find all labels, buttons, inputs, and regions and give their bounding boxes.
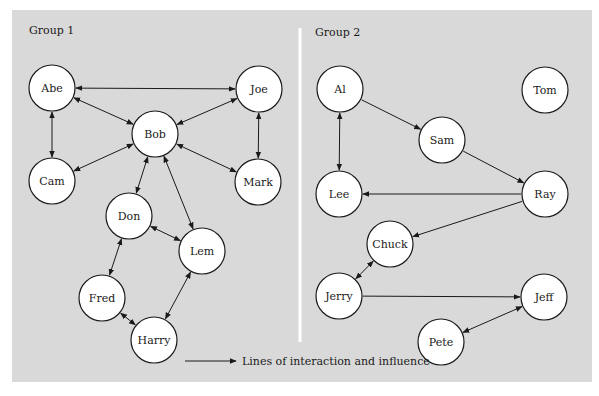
node-jerry: Jerry <box>316 273 362 319</box>
node-label: Lee <box>329 188 349 201</box>
node-don: Don <box>106 193 152 239</box>
node-mark: Mark <box>235 159 281 205</box>
node-sam: Sam <box>419 117 465 163</box>
edge-don-fred <box>110 239 122 275</box>
node-label: Ray <box>534 188 556 201</box>
legend: Lines of interaction and influence <box>185 355 430 368</box>
edge-lem-harry <box>165 272 190 319</box>
edge-bob-mark <box>177 144 236 172</box>
edge-joe-bob <box>177 99 237 125</box>
node-label: Tom <box>533 84 557 97</box>
node-bob: Bob <box>132 111 178 157</box>
node-joe: Joe <box>236 66 282 112</box>
edge-sam-ray <box>463 151 523 183</box>
node-label: Jerry <box>324 290 353 303</box>
node-al: Al <box>317 66 363 112</box>
node-chuck: Chuck <box>367 221 413 267</box>
edge-abe-bob <box>74 98 133 124</box>
node-label: Chuck <box>372 238 408 251</box>
node-label: Harry <box>138 334 172 347</box>
node-jeff: Jeff <box>521 274 567 320</box>
node-label: Mark <box>243 176 273 189</box>
node-label: Fred <box>89 292 115 305</box>
legend-label: Lines of interaction and influence <box>242 355 430 368</box>
edge-fred-harry <box>121 313 136 325</box>
edge-bob-lem <box>164 156 193 228</box>
node-abe: Abe <box>29 65 75 111</box>
edge-chuck-jerry <box>356 261 373 279</box>
node-lee: Lee <box>316 171 362 217</box>
node-lem: Lem <box>179 228 225 274</box>
node-label: Abe <box>40 82 63 95</box>
edge-ray-chuck <box>413 201 522 236</box>
edge-jerry-jeff <box>363 296 520 297</box>
node-label: Bob <box>144 128 166 141</box>
edge-al-sam <box>361 100 420 130</box>
edge-abe-joe <box>76 88 235 89</box>
node-label: Don <box>118 210 141 223</box>
node-label: Sam <box>430 134 455 147</box>
node-tom: Tom <box>522 67 568 113</box>
node-harry: Harry <box>131 317 177 363</box>
edge-cam-bob <box>74 144 133 171</box>
node-label: Lem <box>190 245 215 258</box>
edge-jeff-pete <box>463 307 522 333</box>
node-cam: Cam <box>29 158 75 204</box>
group-2-label: Group 2 <box>315 26 360 39</box>
node-label: Jeff <box>534 291 555 304</box>
node-label: Cam <box>39 175 65 188</box>
node-label: Al <box>333 83 346 96</box>
edge-bob-don <box>136 157 147 193</box>
node-label: Pete <box>429 336 453 349</box>
node-fred: Fred <box>79 275 125 321</box>
node-label: Joe <box>249 83 268 96</box>
edge-don-lem <box>151 226 181 240</box>
sociogram-diagram: Group 1 Group 2 AbeJoeBobCamMarkDonLemFr… <box>0 0 599 396</box>
group-1-label: Group 1 <box>29 24 74 37</box>
node-ray: Ray <box>522 171 568 217</box>
edge-al-lee <box>339 113 340 170</box>
